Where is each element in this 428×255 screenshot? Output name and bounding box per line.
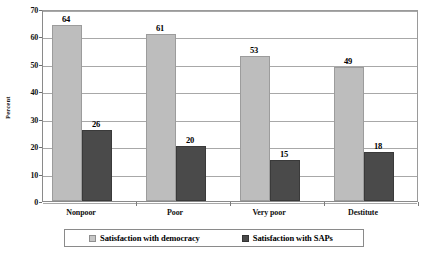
x-axis-tick-marks	[42, 202, 418, 207]
gridline	[43, 11, 417, 12]
bar	[82, 130, 112, 201]
bar-value-label: 61	[139, 23, 181, 33]
bar	[52, 25, 82, 201]
legend-label-democracy: Satisfaction with democracy	[100, 233, 200, 243]
y-axis-tick-label: 40	[12, 88, 38, 97]
bar	[334, 67, 364, 201]
bar-value-label: 49	[327, 56, 369, 66]
bar	[240, 56, 270, 201]
x-axis-tick-mark	[136, 202, 137, 206]
x-axis-tick-label: Destitute	[348, 208, 378, 217]
bar-value-label: 15	[263, 149, 305, 159]
y-axis-tick-label: 60	[12, 33, 38, 42]
y-axis-tick-label: 50	[12, 60, 38, 69]
light-gray-swatch-icon	[89, 235, 96, 242]
bar-value-label: 53	[233, 45, 275, 55]
x-axis-tick-labels: NonpoorPoorVery poorDestitute	[42, 208, 418, 222]
plot-area	[42, 10, 418, 202]
chart-legend: Satisfaction with democracy Satisfaction…	[64, 229, 364, 247]
legend-label-saps: Satisfaction with SAPs	[253, 233, 333, 243]
bar-value-label: 26	[75, 119, 117, 129]
bar-value-label: 18	[357, 141, 399, 151]
legend-entry-democracy: Satisfaction with democracy	[89, 230, 200, 246]
y-axis-tick-label: 0	[12, 198, 38, 207]
bar-chart-figure: Percent 010203040506070 6426612053154918…	[0, 0, 428, 255]
gridline	[43, 38, 417, 39]
legend-entry-saps: Satisfaction with SAPs	[242, 230, 333, 246]
x-axis-tick-label: Poor	[167, 208, 183, 217]
x-axis-tick-label: Very poor	[252, 208, 285, 217]
bar-value-label: 64	[45, 14, 87, 24]
y-axis-tick-label: 70	[12, 6, 38, 15]
y-axis-tick-labels: 010203040506070	[8, 10, 38, 202]
bar-value-label: 20	[169, 135, 211, 145]
x-axis-tick-mark	[418, 202, 419, 206]
bar	[146, 34, 176, 201]
bar	[270, 160, 300, 201]
y-axis-tick-label: 20	[12, 143, 38, 152]
x-axis-tick-mark	[230, 202, 231, 206]
bar	[176, 146, 206, 201]
y-axis-tick-label: 10	[12, 170, 38, 179]
bar	[364, 152, 394, 201]
x-axis-tick-label: Nonpoor	[66, 208, 96, 217]
dark-gray-swatch-icon	[242, 235, 249, 242]
y-axis-tick-label: 30	[12, 115, 38, 124]
x-axis-tick-mark	[324, 202, 325, 206]
